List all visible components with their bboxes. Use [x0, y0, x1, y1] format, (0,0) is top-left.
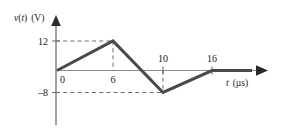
- waveform-figure: v(t)(V) t(µs) 12 –8 0 6 10 16: [0, 0, 284, 135]
- y-axis-arrowhead: [51, 15, 61, 26]
- x-axis-arrowhead: [256, 65, 268, 75]
- waveform-trace: [57, 41, 252, 93]
- y-axis-label-close-paren: ): [24, 13, 27, 24]
- x-axis-label-variable: t: [226, 78, 229, 88]
- x-tick-label-10: 10: [158, 53, 168, 64]
- x-axis-label: t(µs): [226, 78, 248, 89]
- y-tick-label-minus8: –8: [37, 87, 48, 98]
- tick-marks-group: [52, 41, 212, 93]
- x-axis-label-unit: (µs): [233, 78, 249, 89]
- y-tick-label-12: 12: [38, 36, 48, 47]
- x-tick-label-6: 6: [111, 74, 116, 85]
- y-axis-label-unit: (V): [31, 13, 44, 24]
- x-tick-label-0: 0: [60, 74, 65, 85]
- y-axis-label: v(t)(V): [14, 13, 44, 24]
- dashed-guides-group: [56, 41, 163, 93]
- x-tick-label-16: 16: [207, 53, 217, 64]
- plot-svg: v(t)(V) t(µs) 12 –8 0 6 10 16: [0, 0, 284, 135]
